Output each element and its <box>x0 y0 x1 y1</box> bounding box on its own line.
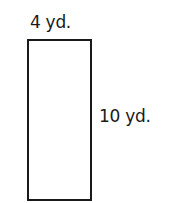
rectangle-shape <box>27 39 92 201</box>
width-label: 4 yd. <box>30 14 71 31</box>
height-label: 10 yd. <box>99 108 151 125</box>
